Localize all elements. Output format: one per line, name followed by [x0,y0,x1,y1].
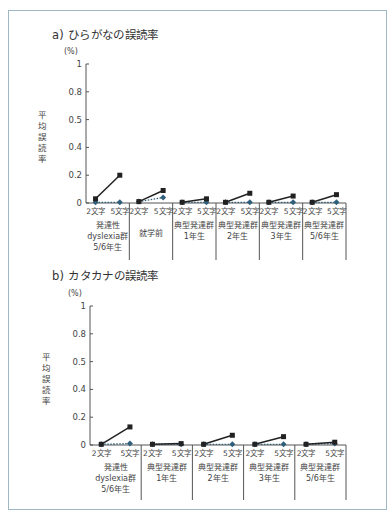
x-tick-label: 2文字 [297,448,316,458]
square-marker [179,441,184,446]
group-label: 2年生 [207,473,228,483]
square-marker [230,433,235,438]
y-axis-label: 読 [42,385,51,395]
diamond-marker [281,441,287,447]
x-tick-label: 2文字 [194,448,213,458]
square-marker [150,442,155,447]
x-tick-label: 5文字 [274,448,293,458]
square-marker [201,442,206,447]
group-label: 典型発達群 [198,462,238,472]
x-tick-label: 2文字 [245,448,264,458]
square-marker [99,442,104,447]
y-axis-label: 平 [42,352,51,362]
square-marker [252,442,257,447]
group-label: 典型発達群 [300,462,340,472]
square-marker [127,424,132,429]
group-label: 典型発達群 [147,462,187,472]
y-tick-label: 0.4 [72,384,86,394]
y-tick-label: 0.2 [72,412,86,422]
group-label: dyslexia群 [95,473,136,483]
y-tick-label: 0 [81,440,86,450]
group-label: 5/6年生 [306,473,335,483]
group-label: 3年生 [259,473,280,483]
y-tick-label: 1 [81,301,86,311]
group-label: 発達性 [104,462,128,472]
y-axis-label: 誤 [42,374,51,384]
group-label: 5/6年生 [101,484,130,494]
square-marker [332,440,337,445]
x-tick-label: 5文字 [223,448,242,458]
group-label: 1年生 [156,473,177,483]
y-unit-label: (%) [68,289,82,298]
x-tick-label: 2文字 [143,448,162,458]
y-axis-label: 率 [42,396,51,406]
diamond-marker [127,441,133,447]
y-axis-label: 均 [42,363,51,373]
square-marker [281,434,286,439]
chart-b-katakana: (%)00.20.40.50.81平均誤読率2文字5文字発達性dyslexia群… [0,0,392,517]
y-tick-label: 0.8 [72,329,86,339]
square-marker [304,442,309,447]
x-tick-label: 5文字 [172,448,191,458]
x-tick-label: 2文字 [92,448,111,458]
group-label: 典型発達群 [249,462,289,472]
diamond-marker [229,441,235,447]
x-tick-label: 5文字 [325,448,344,458]
x-tick-label: 5文字 [121,448,140,458]
y-tick-label: 0.5 [72,357,86,367]
